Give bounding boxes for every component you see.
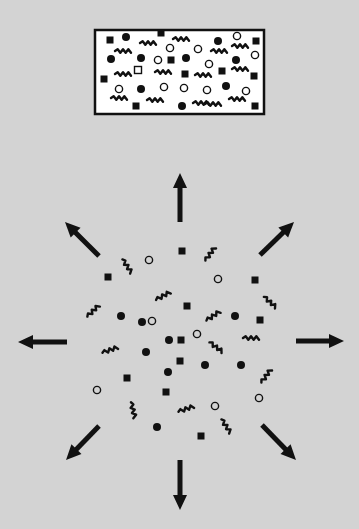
- filled-circle-particle-icon: [237, 361, 245, 369]
- filled-circle-particle-icon: [182, 54, 190, 62]
- dispersed-particles: [86, 246, 277, 439]
- arrow-up-left-icon: [60, 217, 104, 261]
- filled-circle-particle-icon: [222, 82, 230, 90]
- filled-square-particle-icon: [105, 274, 112, 281]
- squiggle-particle-icon: [208, 341, 223, 353]
- squiggle-particle-icon: [121, 258, 133, 273]
- arrow-left-icon: [18, 335, 67, 349]
- filled-circle-particle-icon: [232, 56, 240, 64]
- arrow-up-icon: [173, 173, 187, 222]
- filled-circle-particle-icon: [201, 361, 209, 369]
- filled-square-particle-icon: [184, 303, 191, 310]
- open-circle-particle-icon: [211, 402, 218, 409]
- filled-square-particle-icon: [133, 103, 140, 110]
- filled-circle-particle-icon: [164, 368, 172, 376]
- arrow-up-right-icon: [255, 217, 299, 260]
- squiggle-particle-icon: [220, 418, 232, 433]
- squiggle-particle-icon: [260, 368, 272, 383]
- filled-square-particle-icon: [198, 433, 205, 440]
- open-circle-particle-icon: [145, 256, 152, 263]
- filled-circle-particle-icon: [137, 85, 145, 93]
- squiggle-particle-icon: [129, 402, 137, 418]
- filled-circle-particle-icon: [214, 37, 222, 45]
- particle-container: [95, 30, 264, 115]
- diffusion-diagram: [0, 0, 359, 529]
- filled-circle-particle-icon: [137, 54, 145, 62]
- squiggle-particle-icon: [178, 405, 194, 414]
- filled-square-particle-icon: [163, 389, 170, 396]
- squiggle-particle-icon: [243, 336, 259, 340]
- filled-circle-particle-icon: [231, 312, 239, 320]
- filled-square-particle-icon: [124, 375, 131, 382]
- filled-square-particle-icon: [107, 37, 114, 44]
- squiggle-particle-icon: [86, 304, 100, 318]
- filled-circle-particle-icon: [107, 55, 115, 63]
- open-circle-particle-icon: [193, 330, 200, 337]
- open-circle-particle-icon: [255, 394, 262, 401]
- open-circle-particle-icon: [93, 386, 100, 393]
- arrow-down-left-icon: [61, 421, 104, 465]
- filled-square-particle-icon: [101, 76, 108, 83]
- filled-square-particle-icon: [177, 358, 184, 365]
- squiggle-particle-icon: [102, 346, 118, 355]
- filled-circle-particle-icon: [117, 312, 125, 320]
- filled-square-particle-icon: [168, 57, 175, 64]
- filled-circle-particle-icon: [142, 348, 150, 356]
- arrow-down-icon: [173, 460, 187, 510]
- filled-square-particle-icon: [251, 73, 258, 80]
- arrow-down-right-icon: [257, 420, 301, 465]
- filled-square-particle-icon: [182, 71, 189, 78]
- filled-circle-particle-icon: [178, 102, 186, 110]
- filled-square-particle-icon: [178, 337, 185, 344]
- open-circle-particle-icon: [214, 275, 221, 282]
- filled-circle-particle-icon: [165, 336, 173, 344]
- filled-circle-particle-icon: [138, 318, 146, 326]
- filled-square-particle-icon: [179, 248, 186, 255]
- squiggle-particle-icon: [204, 246, 216, 261]
- filled-circle-particle-icon: [153, 423, 161, 431]
- filled-square-particle-icon: [252, 277, 259, 284]
- open-circle-particle-icon: [148, 317, 155, 324]
- filled-square-particle-icon: [219, 68, 226, 75]
- filled-square-particle-icon: [257, 317, 264, 324]
- filled-square-particle-icon: [253, 38, 260, 45]
- filled-square-particle-icon: [252, 103, 259, 110]
- squiggle-particle-icon: [155, 290, 171, 301]
- filled-square-particle-icon: [158, 30, 165, 37]
- squiggle-particle-icon: [205, 310, 220, 322]
- squiggle-particle-icon: [263, 295, 278, 308]
- arrow-right-icon: [296, 334, 344, 348]
- filled-circle-particle-icon: [122, 33, 130, 41]
